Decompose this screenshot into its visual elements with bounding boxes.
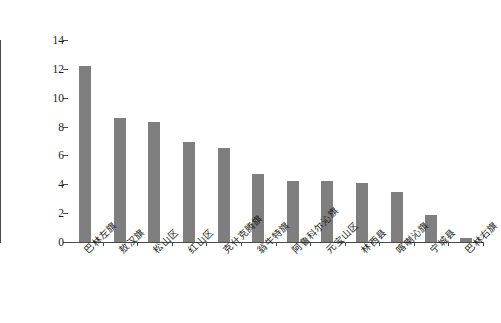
y-tick-label: 14 bbox=[53, 32, 65, 48]
y-tick-label: 4 bbox=[58, 176, 64, 192]
bars-series bbox=[68, 40, 483, 242]
bar bbox=[148, 122, 160, 242]
bar bbox=[356, 183, 368, 242]
y-tick-label: 10 bbox=[53, 90, 65, 106]
y-tick-label: 2 bbox=[58, 205, 64, 221]
y-tick-label: 8 bbox=[58, 119, 64, 135]
bar bbox=[79, 66, 91, 242]
y-tick-label: 0 bbox=[58, 234, 64, 250]
bar-chart-figure: 人均公园绿地面积（平方米/人） 14121086420 巴林左旗敖汉旗松山区红山… bbox=[0, 0, 501, 323]
bar bbox=[183, 142, 195, 242]
bar bbox=[218, 148, 230, 242]
y-tick-label: 6 bbox=[58, 147, 64, 163]
bar bbox=[287, 181, 299, 242]
bar bbox=[391, 192, 403, 243]
y-tick-label: 12 bbox=[53, 61, 65, 77]
y-axis-line bbox=[0, 40, 1, 243]
